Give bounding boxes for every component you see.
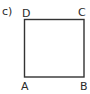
vertex-label-d: D	[22, 8, 30, 19]
vertex-label-c: C	[78, 7, 86, 18]
vertex-label-a: A	[21, 81, 29, 92]
square	[25, 20, 85, 78]
square-diagram	[0, 0, 90, 94]
vertex-label-b: B	[80, 81, 88, 92]
